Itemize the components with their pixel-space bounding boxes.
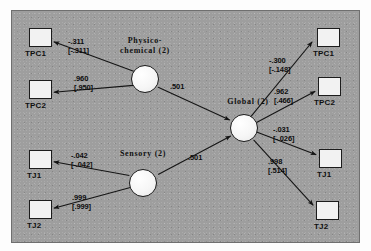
- coef-physico-tpc1: -.311 [-.311]: [68, 37, 89, 55]
- obs-label-tpc1-left: TPC1: [25, 49, 46, 58]
- edge-layer: [12, 11, 359, 242]
- coef-global-tj1-bracket: [-.026]: [273, 134, 294, 143]
- latent-label-sensory: Sensory (2): [103, 149, 183, 159]
- coef-global-tj1: -.031 [-.026]: [273, 125, 294, 143]
- coef-physico-tpc1-primary: -.311: [68, 37, 89, 46]
- coef-global-tj2-bracket: [.514]: [268, 166, 287, 175]
- obs-label-tj2-left: TJ2: [27, 221, 41, 230]
- latent-circle-physico-chemical[interactable]: [131, 65, 159, 93]
- obs-box-tj1-left[interactable]: [29, 150, 52, 169]
- obs-box-tpc1-right[interactable]: [317, 28, 340, 47]
- obs-label-tj1-right: TJ1: [317, 170, 331, 179]
- coef-physico-tpc2: .960 [.950]: [74, 74, 93, 92]
- coef-global-tpc2: .962 [.466]: [274, 87, 293, 105]
- coef-sensory-tj2-bracket: [.999]: [72, 202, 91, 211]
- coef-physico-tpc2-bracket: [.950]: [74, 83, 93, 92]
- coef-sensory-tj1: -.042 [-.042]: [71, 151, 92, 169]
- latent-circle-sensory[interactable]: [129, 169, 157, 197]
- obs-box-tpc2-left[interactable]: [29, 80, 52, 99]
- coef-sensory-global-primary: .501: [188, 153, 202, 162]
- coef-sensory-tj1-primary: -.042: [71, 151, 92, 160]
- obs-label-tpc2-left: TPC2: [25, 101, 46, 110]
- coef-global-tpc2-bracket: [.466]: [274, 96, 293, 105]
- obs-label-tpc2-right: TPC2: [314, 98, 335, 107]
- obs-label-tj1-left: TJ1: [27, 171, 41, 180]
- obs-box-tpc1-left[interactable]: [29, 28, 52, 47]
- latent-label-physico-line1: Physico-: [128, 36, 163, 45]
- coef-global-tj2-primary: .998: [268, 157, 287, 166]
- coef-sensory-tj2: .999 [.999]: [72, 193, 91, 211]
- coef-global-tpc2-primary: .962: [274, 87, 293, 96]
- coef-global-tj2: .998 [.514]: [268, 157, 287, 175]
- coef-physico-tpc2-primary: .960: [74, 74, 93, 83]
- path-diagram-root: TPC1 TPC2 TJ1 TJ2 TPC1 TPC2 TJ1 TJ2 Phys…: [0, 0, 371, 251]
- edge-physico-tpc2: [54, 85, 134, 92]
- edge-sensory-tj2: [54, 187, 131, 208]
- coef-physico-global-primary: .501: [170, 82, 184, 91]
- obs-label-tj2-right: TJ2: [314, 222, 328, 231]
- coef-global-tpc1: -.300 [-.148]: [269, 56, 290, 74]
- obs-box-tj1-right[interactable]: [319, 149, 342, 168]
- coef-physico-global: .501: [170, 82, 184, 91]
- coef-sensory-tj1-bracket: [-.042]: [71, 160, 92, 169]
- obs-box-tj2-left[interactable]: [29, 200, 52, 219]
- obs-label-tpc1-right: TPC1: [313, 49, 334, 58]
- coef-global-tpc1-bracket: [-.148]: [269, 65, 290, 74]
- coef-sensory-tj2-primary: .999: [72, 193, 91, 202]
- coef-global-tpc1-primary: -.300: [269, 56, 290, 65]
- latent-label-physico-line2: chemical (2): [120, 46, 170, 55]
- latent-circle-global[interactable]: [230, 114, 258, 142]
- latent-label-physico-chemical: Physico- chemical (2): [107, 36, 183, 56]
- coef-physico-tpc1-bracket: [-.311]: [68, 46, 89, 55]
- coef-sensory-global: .501: [188, 153, 202, 162]
- obs-box-tpc2-right[interactable]: [318, 77, 341, 96]
- obs-box-tj2-right[interactable]: [316, 201, 339, 220]
- diagram-panel: TPC1 TPC2 TJ1 TJ2 TPC1 TPC2 TJ1 TJ2 Phys…: [11, 10, 360, 243]
- coef-global-tj1-primary: -.031: [273, 125, 294, 134]
